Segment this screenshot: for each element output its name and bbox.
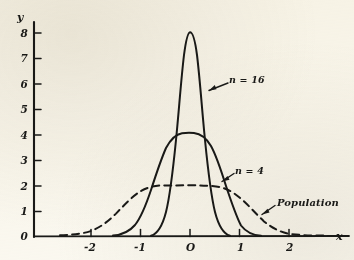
y-axis-label: y (17, 12, 24, 23)
y-tick-label-0: 0 (12, 231, 28, 242)
y-tick-label-3: 3 (12, 155, 28, 166)
y-tick-label-5: 5 (12, 104, 28, 115)
x-tick-label-neg1: -1 (134, 242, 146, 253)
y-tick-label-7: 7 (12, 53, 28, 64)
annotation-arrow-n16 (209, 83, 228, 91)
x-tick-label-2: 2 (286, 242, 294, 253)
y-tick-label-6: 6 (12, 79, 28, 90)
x-axis-label: x (336, 231, 343, 242)
y-tick-label-4: 4 (12, 130, 28, 141)
x-tick-label-neg2: -2 (84, 242, 96, 253)
y-tick-label-8: 8 (12, 28, 28, 39)
figure-sampling-distributions: y x 0 1 2 3 4 5 6 7 8 -2 -1 O 1 2 n = 16… (0, 0, 354, 260)
curve-label-n4: n = 4 (235, 166, 264, 176)
plot-canvas (0, 0, 354, 260)
x-tick-label-1: 1 (237, 242, 245, 253)
y-tick-label-1: 1 (12, 206, 28, 217)
annotation-arrow-population (262, 206, 275, 215)
x-tick-label-zero: O (186, 242, 195, 253)
curve-n16 (151, 32, 230, 236)
curve-label-n16: n = 16 (229, 75, 265, 85)
curve-population (60, 185, 324, 235)
curve-n4 (113, 133, 261, 236)
y-tick-label-2: 2 (12, 181, 28, 192)
curve-label-population: Population (277, 198, 339, 208)
